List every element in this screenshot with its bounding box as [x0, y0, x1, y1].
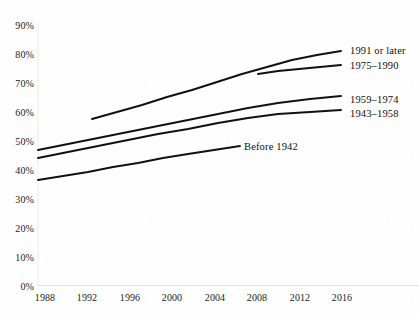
y-tick-label: 20%	[0, 223, 34, 234]
x-tick-label: 2016	[322, 292, 362, 303]
series-label-1959-1974: 1959–1974	[350, 94, 399, 105]
series-line-1991-or-later	[92, 51, 341, 119]
x-tick-label: 1996	[110, 292, 150, 303]
series-label-before-1942: Before 1942	[244, 141, 298, 152]
series-label-1975-1990: 1975–1990	[350, 60, 399, 71]
chart-container: 90% 80% 70% 60% 50% 40% 30% 20% 10% 0% 1…	[0, 0, 419, 317]
x-tick-label: 1988	[25, 292, 65, 303]
y-tick-label: 90%	[0, 20, 34, 31]
x-tick-label: 2000	[152, 292, 192, 303]
y-tick-label: 10%	[0, 252, 34, 263]
x-tick-label: 2004	[195, 292, 235, 303]
y-tick-label: 30%	[0, 194, 34, 205]
y-tick-label: 40%	[0, 165, 34, 176]
y-tick-label: 50%	[0, 136, 34, 147]
x-tick-label: 2008	[237, 292, 277, 303]
y-tick-label: 70%	[0, 78, 34, 89]
y-tick-label: 0%	[0, 281, 34, 292]
series-label-1991-or-later: 1991 or later	[350, 45, 406, 56]
x-tick-label: 1992	[67, 292, 107, 303]
x-tick-label: 2012	[280, 292, 320, 303]
y-tick-label: 60%	[0, 107, 34, 118]
y-tick-label: 80%	[0, 49, 34, 60]
series-label-1943-1958: 1943–1958	[350, 108, 399, 119]
